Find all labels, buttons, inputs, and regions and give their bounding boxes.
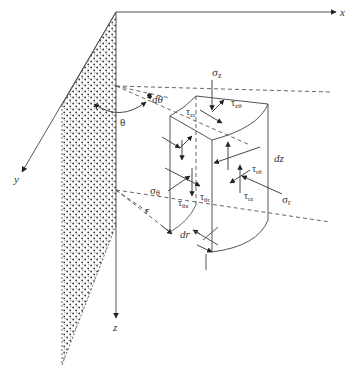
svg-text:σθ: σθ (150, 184, 160, 198)
x-axis-label: x (339, 6, 345, 18)
stress-element-diagram: x y z θ dθ r (0, 0, 353, 375)
svg-text:τrθ: τrθ (252, 163, 262, 176)
y-axis-label: y (13, 173, 19, 185)
z-axis-label: z (112, 321, 118, 333)
svg-text:dr: dr (180, 228, 191, 240)
dimension-r: r (145, 204, 172, 234)
svg-text:r: r (145, 204, 150, 216)
theta-label: θ (120, 116, 125, 128)
svg-text:τzθ: τzθ (231, 97, 242, 110)
svg-text:τθr: τθr (200, 191, 210, 204)
svg-text:σz: σz (212, 66, 222, 80)
svg-text:σr: σr (282, 193, 291, 207)
tau-z-r: τzr (186, 106, 222, 123)
cylindrical-element (116, 96, 330, 270)
theta-face-arrows: τθr τθz σθ (150, 136, 210, 210)
svg-text:τrz: τrz (244, 190, 253, 203)
half-plane-wall (62, 12, 116, 365)
dtheta-arc (149, 93, 150, 99)
svg-text:dz: dz (274, 152, 285, 164)
dtheta-label: dθ (152, 93, 164, 105)
svg-text:τθz: τθz (178, 197, 189, 210)
dimension-dz: dz (274, 152, 285, 164)
